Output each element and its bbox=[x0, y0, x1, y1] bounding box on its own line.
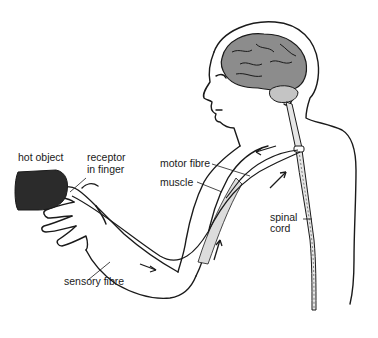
label-hot-object: hot object bbox=[18, 152, 64, 163]
hot-object-icon bbox=[15, 170, 68, 210]
label-muscle: muscle bbox=[160, 177, 193, 188]
reflex-arc-diagram bbox=[0, 0, 378, 338]
arrow-sensory-upper-icon bbox=[270, 172, 286, 188]
label-receptor: receptor bbox=[87, 152, 126, 163]
spinal-cord-icon bbox=[286, 102, 316, 310]
label-receptor-line2: in finger bbox=[87, 164, 124, 175]
label-motor-fibre: motor fibre bbox=[160, 158, 210, 169]
label-spinal-cord-line2: cord bbox=[270, 223, 290, 234]
label-sensory-fibre: sensory fibre bbox=[64, 276, 124, 287]
brain-icon bbox=[221, 34, 306, 103]
